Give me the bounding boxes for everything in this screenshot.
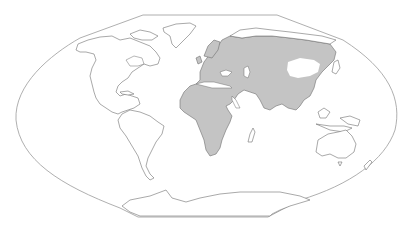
caribbean-islands: [120, 91, 134, 95]
north-america: [76, 36, 160, 114]
new-guinea: [340, 116, 360, 126]
british-isles: [196, 56, 202, 64]
south-america: [118, 110, 164, 180]
shaded-range-eurasia-africa: [180, 36, 336, 156]
australia: [316, 130, 356, 158]
southeast-asia-islands: [318, 108, 330, 118]
red-sea: [232, 96, 240, 108]
arctic-islands: [130, 30, 158, 40]
japan: [332, 60, 340, 74]
madagascar: [248, 128, 255, 142]
antarctica: [122, 190, 310, 216]
map-canvas: [0, 0, 408, 232]
greenland: [163, 23, 196, 48]
world-map: Shaded distribution range: [0, 0, 408, 232]
tasmania: [338, 162, 342, 166]
new-zealand: [364, 160, 372, 170]
